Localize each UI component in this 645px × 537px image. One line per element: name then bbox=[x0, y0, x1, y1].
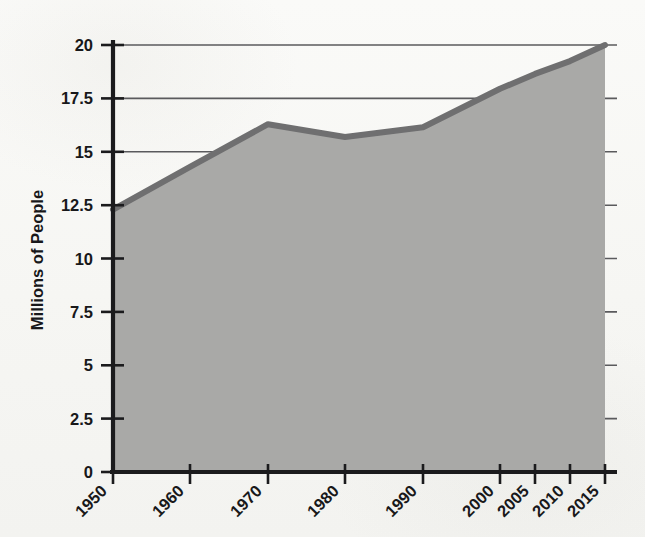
x-tick-label-2000: 2000 bbox=[458, 481, 497, 520]
y-tick-label-12-5: 12.5 bbox=[61, 196, 93, 214]
x-tick-label-1980: 1980 bbox=[303, 481, 342, 520]
x-tick-label-2015: 2015 bbox=[563, 481, 602, 520]
x-tick-labels: 1950 1960 1970 1980 1990 2000 2005 2010 … bbox=[71, 481, 602, 520]
y-tick-label-15: 15 bbox=[75, 143, 93, 161]
area-chart: 20 17.5 15 12.5 10 7.5 5 2.5 0 1950 1960 bbox=[0, 0, 645, 537]
y-tick-label-5: 5 bbox=[84, 356, 93, 374]
x-tick-label-2010: 2010 bbox=[528, 481, 567, 520]
y-tick-label-10: 10 bbox=[75, 250, 93, 268]
x-tick-label-1950: 1950 bbox=[71, 481, 110, 520]
y-axis-title: Millions of People bbox=[28, 190, 46, 330]
y-tick-labels: 20 17.5 15 12.5 10 7.5 5 2.5 0 bbox=[61, 36, 93, 481]
y-tick-label-2-5: 2.5 bbox=[70, 410, 93, 428]
y-tick-label-0: 0 bbox=[84, 463, 93, 481]
x-tick-label-1960: 1960 bbox=[148, 481, 187, 520]
y-tick-label-20: 20 bbox=[75, 36, 93, 54]
area-fill bbox=[113, 45, 605, 472]
x-tick-label-2005: 2005 bbox=[493, 481, 532, 520]
chart-canvas: 20 17.5 15 12.5 10 7.5 5 2.5 0 1950 1960 bbox=[0, 0, 645, 537]
y-tick-label-7-5: 7.5 bbox=[70, 303, 93, 321]
x-tick-label-1990: 1990 bbox=[381, 481, 420, 520]
y-tick-label-17-5: 17.5 bbox=[61, 89, 93, 107]
x-tick-label-1970: 1970 bbox=[226, 481, 265, 520]
